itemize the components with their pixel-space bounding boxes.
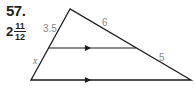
triangle-diagram: 3.5 x 6 5 — [0, 0, 195, 96]
label-upper-left: 3.5 — [43, 23, 57, 34]
label-lower-left: x — [32, 55, 38, 66]
parallel-arrow-icon — [85, 77, 91, 83]
label-upper-right: 6 — [102, 17, 108, 28]
triangle-outline — [31, 9, 191, 80]
parallel-arrow-icon — [85, 45, 91, 51]
label-lower-right: 5 — [159, 52, 165, 63]
